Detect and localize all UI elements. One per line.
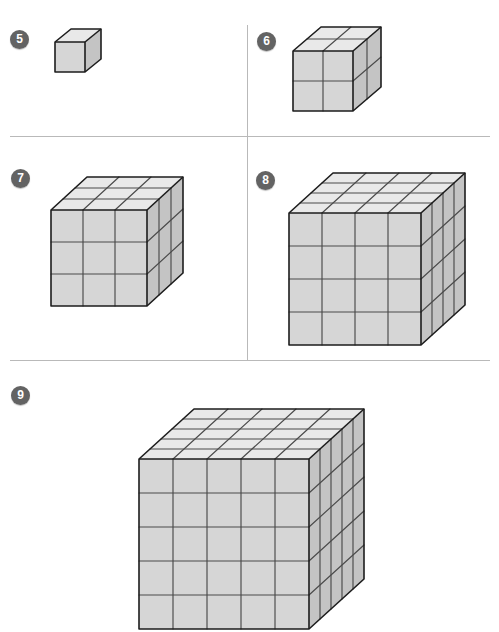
cube-stack-figure-5: [52, 26, 104, 75]
cube-stack-svg-9: [136, 406, 367, 632]
problem-number-badge-8: 8: [256, 171, 275, 190]
problem-number-badge-9: 9: [11, 386, 30, 405]
cube-stack-figure-9: [136, 406, 367, 632]
divider-horizontal-lower: [10, 360, 490, 361]
cube-stack-figure-6: [290, 24, 384, 114]
cube-stack-svg-6: [290, 24, 384, 114]
cube-stack-svg-7: [48, 174, 186, 309]
problem-number-badge-7: 7: [11, 169, 30, 188]
cube-stack-svg-8: [286, 170, 468, 348]
divider-vertical-middle: [247, 25, 248, 360]
cube-stack-figure-8: [286, 170, 468, 348]
problem-number-badge-6: 6: [257, 32, 276, 51]
cube-stack-svg-5: [52, 26, 104, 75]
divider-horizontal-upper: [10, 136, 490, 137]
cube-stack-figure-7: [48, 174, 186, 309]
problem-number-badge-5: 5: [10, 30, 29, 49]
